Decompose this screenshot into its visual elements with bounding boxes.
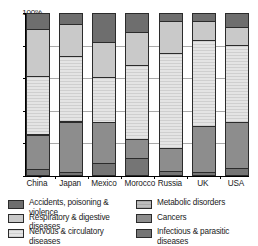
y-tick-mark	[23, 176, 26, 177]
bar-segment-accidents[interactable]	[93, 14, 115, 43]
legend-label-metabolic: Metabolic disorders	[157, 198, 225, 208]
bar-segment-accidents[interactable]	[160, 14, 182, 22]
x-label-china: China	[25, 179, 49, 191]
plot-area	[25, 13, 249, 177]
bar-segment-respiratory[interactable]	[126, 33, 148, 65]
bar-segment-nervous[interactable]	[126, 66, 148, 140]
legend-item-nervous[interactable]: Nervous & circulatory diseases	[8, 227, 136, 242]
legend-label-cancers: Cancers	[157, 213, 186, 223]
x-label-usa: USA	[224, 179, 248, 191]
legend-swatch-nervous	[8, 229, 24, 238]
legend-swatch-cancers	[136, 214, 152, 223]
x-label-russia: Russia	[158, 179, 182, 191]
bar-segment-nervous[interactable]	[193, 41, 215, 126]
bar-segment-cancers[interactable]	[60, 123, 82, 173]
legend-swatch-respiratory	[8, 214, 24, 223]
bar-segment-infectious[interactable]	[126, 159, 148, 175]
bar-segment-infectious[interactable]	[160, 172, 182, 175]
bar-mexico[interactable]	[92, 13, 116, 176]
legend-item-accidents[interactable]: Accidents, poisoning & violence	[8, 198, 136, 213]
bar-segment-cancers[interactable]	[93, 123, 115, 163]
bar-segment-nervous[interactable]	[60, 57, 82, 121]
chart-legend: Accidents, poisoning & violenceMetabolic…	[8, 198, 256, 242]
bar-japan[interactable]	[59, 13, 83, 176]
bar-segment-respiratory[interactable]	[27, 30, 49, 77]
bar-segment-accidents[interactable]	[27, 14, 49, 30]
bar-segment-respiratory[interactable]	[226, 28, 248, 46]
legend-swatch-infectious	[136, 229, 152, 238]
bar-segment-respiratory[interactable]	[160, 22, 182, 54]
legend-label-infectious: Infectious & parasitic diseases	[157, 227, 229, 246]
bar-segment-infectious[interactable]	[93, 164, 115, 175]
legend-swatch-accidents	[8, 200, 24, 209]
bar-segment-respiratory[interactable]	[193, 22, 215, 41]
bar-segment-accidents[interactable]	[126, 14, 148, 33]
bar-segment-nervous[interactable]	[160, 54, 182, 149]
bar-segment-respiratory[interactable]	[60, 25, 82, 57]
bar-segment-infectious[interactable]	[193, 173, 215, 175]
bar-segment-cancers[interactable]	[193, 127, 215, 174]
bar-segment-cancers[interactable]	[126, 140, 148, 159]
bar-uk[interactable]	[192, 13, 216, 176]
legend-item-cancers[interactable]: Cancers	[136, 213, 256, 228]
legend-label-nervous: Nervous & circulatory diseases	[29, 227, 136, 246]
bar-segment-nervous[interactable]	[27, 77, 49, 135]
bar-series-container	[26, 13, 249, 176]
legend-item-metabolic[interactable]: Metabolic disorders	[136, 198, 256, 213]
bar-segment-respiratory[interactable]	[93, 43, 115, 78]
bar-segment-nervous[interactable]	[93, 78, 115, 123]
legend-swatch-metabolic	[136, 200, 152, 209]
bar-segment-accidents[interactable]	[60, 14, 82, 25]
legend-item-respiratory[interactable]: Respiratory & digestive diseases	[8, 213, 136, 228]
x-label-mexico: Mexico	[91, 179, 115, 191]
bar-segment-accidents[interactable]	[193, 14, 215, 22]
bar-segment-cancers[interactable]	[160, 149, 182, 172]
bar-segment-accidents[interactable]	[226, 14, 248, 28]
bar-usa[interactable]	[225, 13, 249, 176]
bar-morocco[interactable]	[125, 13, 149, 176]
x-label-uk: UK	[191, 179, 215, 191]
bar-segment-infectious[interactable]	[60, 173, 82, 175]
bar-segment-nervous[interactable]	[226, 46, 248, 123]
x-label-morocco: Morocco	[124, 179, 148, 191]
x-axis-category-labels: ChinaJapanMexicoMoroccoRussiaUKUSA	[25, 179, 248, 191]
legend-item-infectious[interactable]: Infectious & parasitic diseases	[136, 227, 256, 242]
plot-area-wrapper: 100%80%60%40%20%0 ChinaJapanMexicoMorocc…	[0, 0, 258, 190]
x-label-japan: Japan	[58, 179, 82, 191]
bar-segment-cancers[interactable]	[27, 136, 49, 170]
bar-segment-infectious[interactable]	[226, 169, 248, 175]
bar-segment-infectious[interactable]	[27, 170, 49, 175]
bar-russia[interactable]	[159, 13, 183, 176]
bar-segment-cancers[interactable]	[226, 123, 248, 168]
bar-china[interactable]	[26, 13, 50, 176]
